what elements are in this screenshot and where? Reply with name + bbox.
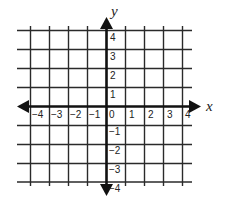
x-tick-label: 3 [167, 109, 173, 120]
y-axis-label: y [109, 3, 118, 19]
y-tick-label: 2 [110, 70, 116, 81]
x-axis-label: x [205, 98, 213, 114]
x-tick-label: −2 [70, 109, 82, 120]
y-tick-label: 4 [110, 32, 116, 43]
x-tick-label: −3 [51, 109, 63, 120]
y-tick-label: 3 [110, 51, 116, 62]
x-axis-right-arrow-icon [189, 100, 201, 113]
x-tick-label: −1 [89, 109, 101, 120]
x-axis-left-arrow-icon [17, 100, 29, 113]
y-tick-label: 1 [110, 89, 116, 100]
coordinate-plane: x y −4 −3 −2 −1 0 1 2 3 4 4 3 2 1 −1 −2 … [0, 0, 225, 198]
y-tick-label: −1 [109, 126, 121, 137]
y-tick-label: −2 [109, 145, 121, 156]
y-tick-label: −4 [109, 183, 121, 194]
origin-label: 0 [109, 109, 115, 120]
x-tick-label: 2 [148, 109, 154, 120]
x-tick-label: 4 [185, 109, 191, 120]
x-tick-label: −4 [32, 109, 44, 120]
y-tick-label: −3 [109, 164, 121, 175]
x-tick-label: 1 [129, 109, 135, 120]
